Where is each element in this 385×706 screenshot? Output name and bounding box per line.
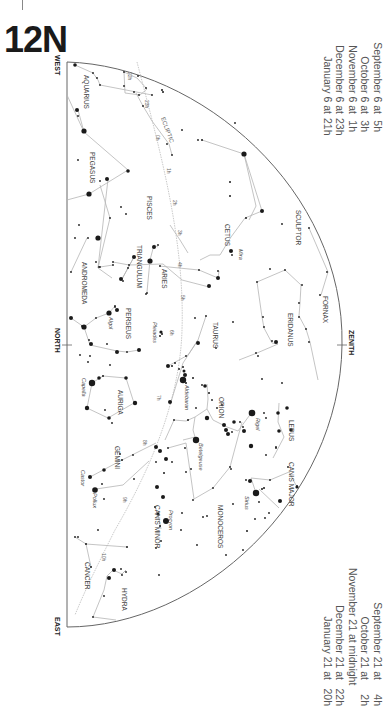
label-procyon: Procyon bbox=[168, 510, 174, 530]
label-aries: ARIES bbox=[161, 269, 168, 289]
label-sculptor: SCULPTOR bbox=[295, 210, 302, 246]
svg-text:2h: 2h bbox=[172, 200, 178, 206]
label-pegasus: PEGASUS bbox=[89, 152, 96, 184]
constellation-labels: AQUARIUS PEGASUS PISCES CETUS SCULPTOR F… bbox=[81, 75, 329, 611]
svg-text:8h: 8h bbox=[142, 440, 148, 446]
svg-text:0h: 0h bbox=[155, 135, 161, 141]
label-castor: Castor bbox=[80, 470, 86, 487]
label-andromeda: ANDROMEDA bbox=[81, 262, 88, 305]
label-mira: Mira bbox=[238, 249, 244, 260]
label-perseus: PERSEUS bbox=[125, 308, 132, 340]
star-labels: Mira Algol Pleiades Aldebaran Capella Ri… bbox=[80, 249, 261, 530]
label-cetus: CETUS bbox=[224, 224, 231, 247]
direction-zenith: ZENITH bbox=[348, 330, 355, 355]
horizon-outline bbox=[62, 62, 347, 627]
label-eridanus: ERIDANUS bbox=[287, 313, 294, 347]
label-fornax: FORNAX bbox=[322, 296, 329, 324]
svg-text:5h: 5h bbox=[180, 295, 186, 301]
svg-text:1h: 1h bbox=[166, 168, 172, 174]
label-cancer: CANCER bbox=[84, 562, 91, 590]
label-gemini: GEMINI bbox=[114, 446, 121, 469]
label-canis-major: CANIS MAJOR bbox=[288, 462, 295, 507]
label-orion: ORION bbox=[218, 397, 225, 419]
label-hydra: HYDRA bbox=[121, 588, 128, 611]
label-pisces: PISCES bbox=[146, 196, 153, 221]
label-monoceros: MONOCEROS bbox=[217, 505, 224, 549]
svg-text:3h: 3h bbox=[177, 230, 183, 236]
direction-east: EAST bbox=[54, 617, 61, 636]
label-aldebaran: Aldebaran bbox=[184, 384, 190, 410]
direction-north: NORTH bbox=[54, 328, 61, 353]
label-canis-minor: CANIS MINOR bbox=[154, 505, 161, 549]
label-pollux: Pollux bbox=[92, 493, 98, 508]
label-aquarius: AQUARIUS bbox=[82, 75, 90, 110]
label-triangulum: TRIANGULUM bbox=[136, 245, 143, 288]
svg-text:6h: 6h bbox=[169, 330, 175, 336]
label-sirius: Sirius bbox=[244, 496, 250, 510]
svg-text:10h: 10h bbox=[101, 553, 107, 562]
svg-text:9h: 9h bbox=[122, 497, 128, 503]
label-taurus: TAURUS bbox=[212, 322, 219, 349]
label-capella: Capella bbox=[81, 378, 87, 397]
label-betelgeuse: Betelgeuse bbox=[198, 443, 204, 471]
svg-text:23h: 23h bbox=[144, 100, 150, 109]
label-lepus: LEPUS bbox=[288, 420, 295, 442]
svg-text:7h: 7h bbox=[156, 395, 162, 401]
label-pleiades: Pleiades bbox=[152, 322, 158, 343]
svg-text:4h: 4h bbox=[177, 262, 183, 268]
label-auriga: AURIGA bbox=[117, 390, 124, 416]
direction-west: WEST bbox=[54, 55, 61, 76]
label-algol: Algol bbox=[108, 316, 114, 330]
label-rigel: Rigel bbox=[255, 418, 261, 431]
svg-text:22h: 22h bbox=[127, 72, 133, 81]
ecliptic-label: ECLIPTIC bbox=[160, 116, 175, 144]
